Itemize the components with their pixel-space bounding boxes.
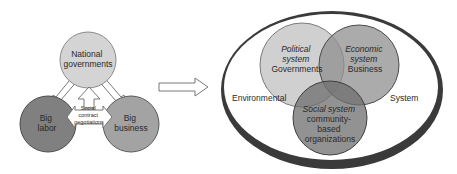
political-label-3: Governments — [271, 64, 322, 74]
business-label-2: business — [114, 123, 148, 133]
diagram-canvas: National governments Big labor Big busin… — [0, 0, 457, 174]
social-label-2: community- — [307, 114, 351, 124]
labor-label-2: labor — [38, 123, 57, 133]
labor-label-1: Big — [40, 113, 53, 123]
environmental-label: Environmental — [232, 93, 286, 103]
social-label-4: organizations — [305, 134, 356, 144]
national-label-2: governments — [63, 59, 112, 69]
economic-label-1: Economic — [345, 44, 383, 54]
transition-arrow-icon — [159, 78, 208, 96]
negotiation-label-1: Social — [81, 105, 96, 111]
political-label-2: system — [282, 54, 309, 64]
national-label-1: National — [71, 49, 102, 59]
negotiation-label-2: contract — [78, 112, 98, 118]
social-label-1: Social system — [303, 104, 355, 114]
political-label-1: Political — [281, 44, 311, 54]
right-diagram: Political system Governments Economic sy… — [221, 11, 443, 169]
economic-label-2: system — [350, 54, 377, 64]
economic-label-3: Business — [348, 64, 383, 74]
svg-text:Big labor: Big labor — [38, 113, 57, 133]
negotiation-label-3: negotiations — [74, 119, 104, 125]
svg-text:Economic system Bu: Economic system Business — [345, 44, 385, 74]
social-label-3: based — [317, 124, 340, 134]
left-diagram: National governments Big labor Big busin… — [20, 32, 159, 152]
system-label: System — [390, 93, 418, 103]
business-label-1: Big — [124, 113, 137, 123]
